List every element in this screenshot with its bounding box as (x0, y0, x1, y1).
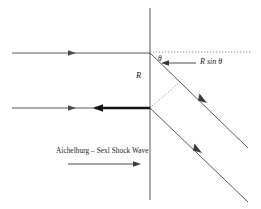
bold-segment-arrowhead-icon (93, 104, 103, 111)
diagram-canvas (0, 0, 261, 209)
lower-ray-arrowhead-icon (68, 105, 76, 111)
lower-diagonal-arrowhead-icon (193, 144, 202, 154)
caption-arrowhead-icon (133, 161, 141, 166)
shock-wave-diagram: θ R R sin θ Aichelburg – Sexl Shock Wave (0, 0, 261, 209)
angle-theta-label: θ (158, 55, 162, 63)
upper-diagonal-arrowhead-icon (198, 94, 207, 104)
projection-label: R sin θ (200, 58, 222, 66)
shock-wave-caption: Aichelburg – Sexl Shock Wave (56, 148, 149, 155)
radius-R-label: R (136, 71, 141, 80)
upper-ray-arrowhead-icon (68, 50, 76, 56)
lower-diagonal-ray (150, 108, 248, 202)
perpendicular-dotted-line (150, 81, 181, 108)
